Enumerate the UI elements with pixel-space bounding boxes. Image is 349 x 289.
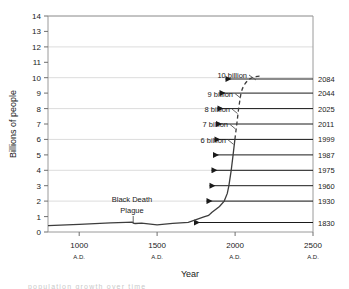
y-axis-ticks [44,16,48,232]
chart-canvas: 14 13 12 11 10 9 8 7 6 5 4 3 2 1 0 Billi… [0,0,349,289]
milestone-year: 1975 [318,166,335,175]
x-tick-labels: 1000 A.D. 1500 A.D. 2000 A.D. 2500 A.D. [70,241,322,260]
milestone-year: 1930 [318,197,335,206]
milestone-year: 1999 [318,135,335,144]
x-tick-sub: A.D. [307,254,319,260]
y-tick: 0 [37,228,42,237]
bottom-cropped-caption: population growth over time [0,283,349,289]
milestone-label: 8 billion [205,105,230,114]
y-tick: 10 [32,74,41,83]
y-tick: 14 [32,12,41,21]
milestone-year-labels: 2084 2044 2025 2011 1999 1987 1975 1960 … [318,75,335,228]
milestone-label: 7 billion [203,120,228,129]
milestone-year: 2084 [318,75,335,84]
population-growth-chart: 14 13 12 11 10 9 8 7 6 5 4 3 2 1 0 Billi… [0,0,349,289]
annotation-line-2: Plague [120,206,143,215]
bottom-caption-text: population growth over time [0,283,349,289]
milestone-year: 1960 [318,182,335,191]
x-axis-title: Year [181,269,199,279]
x-tick-sub: A.D. [229,254,241,260]
y-tick: 1 [37,213,42,222]
y-tick: 7 [37,120,42,129]
milestone-label: 6 billion [201,136,226,145]
x-tick: 1000 [70,241,88,250]
x-tick: 2500 [304,241,322,250]
annotation-line-1: Black Death [112,195,152,204]
milestone-year: 2044 [318,89,335,98]
y-tick: 11 [33,58,42,67]
y-tick: 4 [37,166,42,175]
milestone-year: 2011 [318,120,334,129]
y-tick: 2 [37,197,42,206]
x-axis-ticks [79,232,313,236]
y-tick: 3 [37,182,42,191]
x-tick: 1500 [148,241,166,250]
y-tick: 12 [32,43,41,52]
milestone-label: 10 billion [217,71,247,80]
milestone-year: 1830 [318,219,335,228]
x-tick-sub: A.D. [73,254,85,260]
y-tick: 5 [37,151,42,160]
y-tick: 6 [37,135,42,144]
x-tick-sub: A.D. [151,254,163,260]
milestone-year: 1987 [318,151,335,160]
milestone-label: 9 billion [208,90,233,99]
y-tick: 13 [32,27,41,36]
x-tick: 2000 [226,241,244,250]
y-tick: 8 [37,105,42,114]
y-tick-labels: 14 13 12 11 10 9 8 7 6 5 4 3 2 1 0 [32,12,41,237]
y-axis-title: Billions of people [8,90,18,158]
y-tick: 9 [37,89,42,98]
milestone-year: 2025 [318,105,335,114]
